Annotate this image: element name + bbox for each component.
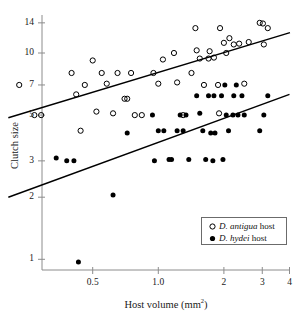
data-point	[194, 93, 199, 98]
data-point	[200, 128, 205, 133]
data-point	[181, 128, 186, 133]
legend-item-antigua: D. antigua host	[206, 220, 286, 232]
data-point	[261, 113, 266, 118]
data-point	[156, 128, 161, 133]
data-point	[76, 260, 81, 265]
data-point	[231, 42, 236, 47]
data-point	[215, 82, 220, 87]
data-point	[104, 81, 109, 86]
legend-box: D. antigua host D. hydei host	[201, 217, 287, 245]
data-point	[197, 111, 202, 116]
data-point	[161, 128, 166, 133]
data-point	[64, 158, 69, 163]
data-point	[189, 70, 194, 75]
data-point	[226, 128, 231, 133]
y-tick-label: 7	[8, 80, 34, 90]
regression-lines	[8, 33, 290, 198]
data-point	[206, 93, 211, 98]
data-point	[152, 158, 157, 163]
data-point	[115, 70, 120, 75]
data-point	[203, 157, 208, 162]
legend-label-antigua: D. antigua host	[218, 221, 275, 231]
legend-suffix-antigua: host	[258, 221, 275, 231]
x-tick-label: 1.0	[143, 278, 173, 288]
data-point	[219, 93, 224, 98]
data-point	[216, 111, 221, 116]
data-point	[171, 50, 176, 55]
data-point	[246, 39, 251, 44]
data-point	[132, 113, 137, 118]
data-point	[94, 109, 99, 114]
x-axis-title: Host volume (mm2)	[42, 297, 290, 310]
data-point	[186, 157, 191, 162]
x-tick-label: 4	[275, 278, 305, 288]
data-point	[175, 80, 180, 85]
legend-item-hydei: D. hydei host	[206, 232, 286, 244]
data-point	[178, 113, 183, 118]
data-point	[222, 82, 227, 87]
data-point	[90, 58, 95, 63]
x-axis-title-close: )	[204, 299, 208, 310]
data-point	[71, 158, 76, 163]
data-point	[128, 70, 133, 75]
y-tick-label: 14	[8, 18, 34, 28]
legend-species-antigua: D. antigua	[219, 221, 258, 231]
data-point	[69, 70, 74, 75]
data-point	[54, 155, 59, 160]
data-point	[156, 81, 161, 86]
data-point	[242, 81, 247, 86]
data-point	[210, 158, 215, 163]
data-point	[82, 82, 87, 87]
y-tick-label: 1	[8, 254, 34, 264]
data-point	[201, 82, 206, 87]
filled-circle-icon	[206, 234, 218, 243]
data-point	[257, 128, 262, 133]
data-point	[237, 41, 242, 46]
legend-label-hydei: D. hydei host	[218, 233, 267, 243]
data-point	[74, 92, 79, 97]
legend-suffix-hydei: host	[250, 233, 267, 243]
data-point	[110, 111, 115, 116]
data-point	[175, 128, 180, 133]
regression-line	[8, 33, 290, 118]
data-point	[260, 21, 265, 26]
data-point	[193, 26, 198, 31]
open-circle-icon	[206, 222, 218, 231]
data-point	[99, 70, 104, 75]
data-point	[211, 93, 216, 98]
y-tick-label: 2	[8, 192, 34, 202]
data-point	[212, 130, 217, 135]
data-point	[169, 157, 174, 162]
data-point	[231, 93, 236, 98]
data-point	[235, 113, 240, 118]
data-point	[239, 93, 244, 98]
x-axis-title-main: Host volume (mm	[124, 299, 200, 310]
data-point	[160, 57, 165, 62]
y-tick-label: 10	[8, 48, 34, 58]
data-point	[125, 130, 130, 135]
data-point	[242, 113, 247, 118]
legend-species-hydei: D. hydei	[219, 233, 250, 243]
data-point	[183, 113, 188, 118]
data-point	[139, 113, 144, 118]
data-point	[220, 157, 225, 162]
x-tick-label: 3	[247, 278, 277, 288]
x-tick-label: 2	[209, 278, 239, 288]
data-point	[234, 82, 239, 87]
data-point	[224, 113, 229, 118]
data-point	[265, 26, 270, 31]
data-point	[150, 113, 155, 118]
data-point	[230, 113, 235, 118]
data-point	[261, 42, 266, 47]
data-point	[111, 192, 116, 197]
data-point	[265, 93, 270, 98]
data-point	[208, 130, 213, 135]
data-point	[78, 128, 83, 133]
data-point	[221, 40, 226, 45]
scatter-chart	[0, 0, 307, 320]
data-point	[194, 48, 199, 53]
regression-line	[8, 94, 289, 197]
data-point	[227, 36, 232, 41]
data-point	[217, 26, 222, 31]
data-point	[207, 49, 212, 54]
